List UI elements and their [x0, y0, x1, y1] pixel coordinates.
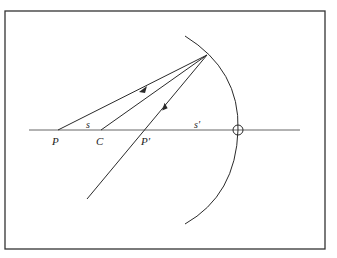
incident-ray — [58, 55, 207, 130]
label-P: P — [51, 135, 59, 147]
mirror-ray-diagram: P C P′ s s′ — [0, 0, 337, 258]
label-s: s — [86, 119, 90, 130]
label-s-prime: s′ — [194, 119, 201, 130]
label-P-prime: P′ — [140, 135, 151, 147]
label-C: C — [96, 135, 104, 147]
